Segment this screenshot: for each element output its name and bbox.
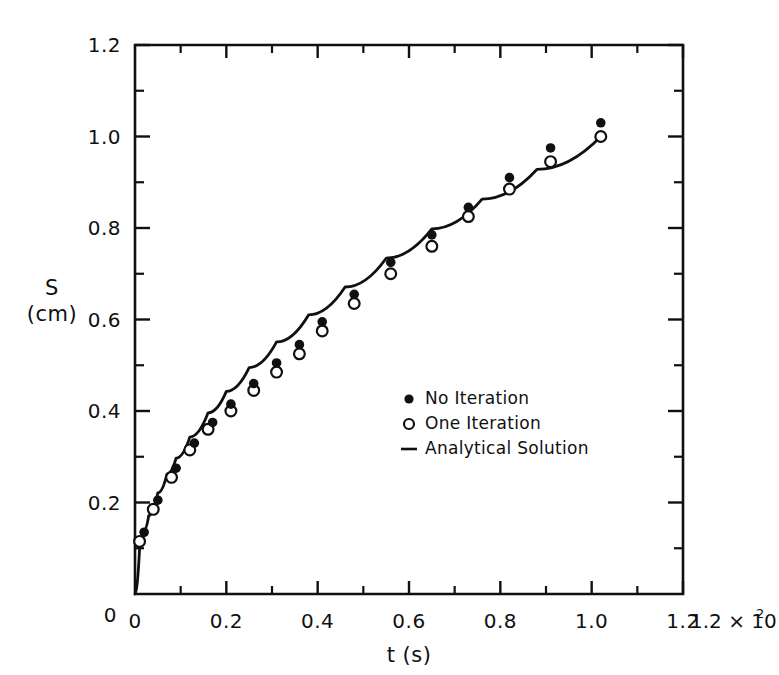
y-tick-label: 0.4 (88, 399, 121, 423)
data-point-no-iteration (295, 340, 305, 350)
data-point-one-iteration (385, 268, 396, 279)
y-axis-title-symbol: S (45, 276, 59, 300)
data-point-one-iteration (595, 131, 606, 142)
data-point-no-iteration (190, 438, 200, 448)
data-point-no-iteration (272, 358, 282, 368)
data-point-no-iteration (153, 495, 163, 505)
y-tick-label: 0.6 (88, 308, 121, 332)
data-point-one-iteration (317, 326, 328, 337)
analytical-solution-curve (135, 137, 601, 595)
data-point-no-iteration (386, 258, 396, 268)
x-tick-label: 1.0 (575, 609, 608, 633)
x-axis-top-ticks (181, 45, 683, 58)
y-axis-right-ticks (668, 45, 683, 548)
legend-label: Analytical Solution (425, 438, 589, 458)
x-tick-label: 0.4 (301, 609, 334, 633)
data-point-no-iteration (464, 203, 474, 213)
data-point-one-iteration (426, 241, 437, 252)
data-point-one-iteration (271, 367, 282, 378)
data-point-no-iteration (596, 118, 606, 128)
data-point-one-iteration (545, 156, 556, 167)
data-point-no-iteration (349, 290, 359, 300)
series-one-iteration (134, 131, 606, 547)
data-point-one-iteration (134, 536, 145, 547)
legend: No IterationOne IterationAnalytical Solu… (401, 388, 589, 458)
data-point-one-iteration (294, 348, 305, 359)
data-point-no-iteration (317, 317, 327, 327)
data-point-no-iteration (427, 230, 437, 240)
x-tick-label: 0.6 (392, 609, 425, 633)
data-point-no-iteration (249, 379, 259, 389)
y-tick-label: 1.0 (88, 125, 121, 149)
x-axis-title: t (s) (387, 643, 432, 667)
series-analytical-solution (135, 137, 601, 595)
legend-marker-filled-circle-icon (404, 394, 413, 403)
x-tick-label: 0.8 (484, 609, 517, 633)
legend-label: One Iteration (425, 413, 541, 433)
data-point-no-iteration (208, 418, 218, 428)
x-tick-label: 0 (128, 609, 141, 633)
y-tick-label: 0.8 (88, 216, 121, 240)
legend-marker-open-circle-icon (404, 419, 414, 429)
scatter-plot: 00.20.40.60.81.01.2 00.20.40.60.81.01.2 … (0, 0, 779, 675)
series-no-iteration (139, 118, 605, 537)
figure-container: 00.20.40.60.81.01.2 00.20.40.60.81.01.2 … (0, 0, 779, 675)
y-axis-title-unit: (cm) (27, 302, 77, 326)
data-point-no-iteration (546, 143, 556, 153)
data-point-one-iteration (166, 472, 177, 483)
data-point-no-iteration (226, 399, 236, 409)
data-point-one-iteration (463, 211, 474, 222)
legend-label: No Iteration (425, 388, 529, 408)
data-point-no-iteration (171, 463, 181, 473)
data-point-no-iteration (139, 527, 149, 537)
x-axis-tick-labels: 00.20.40.60.81.01.2 (128, 609, 699, 633)
x-axis-exponent-power: 2 (756, 606, 764, 621)
y-axis-tick-labels: 00.20.40.60.81.01.2 (88, 33, 121, 627)
y-tick-label: 1.2 (88, 33, 121, 57)
data-point-one-iteration (349, 298, 360, 309)
data-point-no-iteration (505, 173, 515, 183)
data-point-one-iteration (504, 184, 515, 195)
x-tick-label: 0.2 (210, 609, 243, 633)
y-tick-label: 0.2 (88, 491, 121, 515)
y-tick-label: 0 (104, 603, 117, 627)
data-point-one-iteration (148, 504, 159, 515)
x-axis-exponent: 1.2 × 10 2 (690, 606, 777, 633)
